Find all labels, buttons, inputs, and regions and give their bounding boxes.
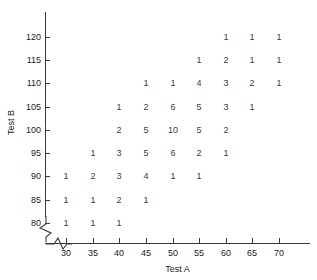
data-point-count: 1 [83, 219, 103, 228]
x-axis-line [45, 243, 310, 244]
data-point-count: 1 [242, 33, 262, 42]
x-tick-label: 45 [133, 249, 159, 258]
data-point-count: 3 [216, 79, 236, 88]
y-tick-label-text: 110 [13, 79, 41, 88]
data-point-count: 4 [136, 172, 156, 181]
data-point-count: 1 [269, 79, 289, 88]
x-tick-mark [173, 238, 174, 244]
data-point-count: 1 [216, 33, 236, 42]
y-tick-mark [45, 176, 50, 177]
y-tick-label-text: 115 [13, 56, 41, 65]
data-point-count: 1 [163, 172, 183, 181]
data-point-count: 5 [189, 103, 209, 112]
data-point-count: 3 [109, 172, 129, 181]
data-point-count: 2 [216, 126, 236, 135]
y-tick-mark [45, 153, 50, 154]
data-point-count: 2 [109, 196, 129, 205]
data-point-count: 2 [83, 172, 103, 181]
y-tick-label-text: 120 [13, 33, 41, 42]
x-tick-mark [226, 238, 227, 244]
data-point-count: 1 [269, 33, 289, 42]
y-tick-label-text: 90 [13, 172, 41, 181]
data-point-count: 1 [269, 56, 289, 65]
y-tick-mark [45, 200, 50, 201]
data-point-count: 1 [189, 56, 209, 65]
data-point-count: 1 [163, 79, 183, 88]
data-point-count: 1 [216, 149, 236, 158]
x-tick-label: 70 [266, 249, 292, 258]
data-point-count: 2 [109, 126, 129, 135]
y-tick-mark [45, 107, 50, 108]
x-tick-label: 50 [160, 249, 186, 258]
data-point-count: 2 [242, 79, 262, 88]
data-point-count: 1 [56, 196, 76, 205]
x-axis-title: Test A [45, 265, 310, 274]
data-point-count: 5 [136, 126, 156, 135]
y-tick-label: 85 [8, 196, 41, 205]
y-tick-mark [45, 60, 50, 61]
y-tick-label-text: 80 [13, 219, 41, 228]
y-tick-label-text: 95 [13, 149, 41, 158]
y-tick-mark [45, 37, 50, 38]
data-point-count: 3 [109, 149, 129, 158]
y-tick-label: 80 [8, 219, 41, 228]
data-point-count: 1 [242, 56, 262, 65]
data-point-count: 1 [189, 172, 209, 181]
x-tick-label: 65 [239, 249, 265, 258]
data-point-count: 1 [83, 196, 103, 205]
y-tick-label: 120 [8, 33, 41, 42]
data-point-count: 5 [189, 126, 209, 135]
data-point-count: 5 [136, 149, 156, 158]
y-tick-label-text: 105 [13, 103, 41, 112]
data-point-count: 1 [109, 219, 129, 228]
y-tick-mark [45, 83, 50, 84]
data-point-count: 1 [83, 149, 103, 158]
data-point-count: 1 [56, 219, 76, 228]
y-tick-mark [45, 130, 50, 131]
data-point-count: 1 [242, 103, 262, 112]
x-tick-label: 35 [80, 249, 106, 258]
y-tick-label: 115 [8, 56, 41, 65]
data-point-count: 1 [56, 172, 76, 181]
data-point-count: 1 [136, 79, 156, 88]
x-tick-mark [119, 238, 120, 244]
scatter-chart: 80859095100105110115120 3035404550556065… [0, 0, 317, 280]
x-tick-mark [199, 238, 200, 244]
y-axis-title: Test B [7, 93, 16, 153]
x-tick-label: 60 [213, 249, 239, 258]
y-tick-label: 110 [8, 79, 41, 88]
data-point-count: 2 [136, 103, 156, 112]
y-tick-label-text: 85 [13, 196, 41, 205]
data-point-count: 1 [109, 103, 129, 112]
data-point-count: 2 [216, 56, 236, 65]
x-tick-mark [252, 238, 253, 244]
x-tick-mark [279, 238, 280, 244]
y-axis-line [45, 12, 46, 217]
data-point-count: 4 [189, 79, 209, 88]
x-axis-break-icon [46, 236, 72, 252]
x-tick-mark [93, 238, 94, 244]
data-point-count: 3 [216, 103, 236, 112]
data-point-count: 1 [136, 196, 156, 205]
y-tick-label: 90 [8, 172, 41, 181]
data-point-count: 6 [163, 149, 183, 158]
data-point-count: 2 [189, 149, 209, 158]
x-tick-mark [146, 238, 147, 244]
data-point-count: 6 [163, 103, 183, 112]
x-tick-label: 40 [106, 249, 132, 258]
data-point-count: 10 [163, 126, 183, 135]
y-tick-label-text: 100 [13, 126, 41, 135]
x-tick-label: 55 [186, 249, 212, 258]
